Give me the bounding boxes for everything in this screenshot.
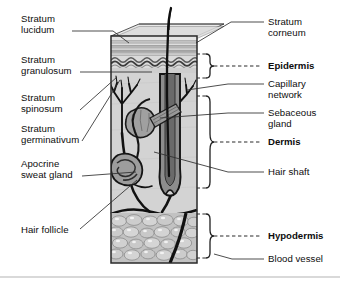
label-hair-shaft: Hair shaft	[268, 166, 310, 177]
label-stratum-lucidum: Stratum lucidum	[21, 13, 55, 36]
layer-brackets	[206, 54, 214, 258]
label-blood-vessel: Blood vessel	[268, 253, 323, 264]
epidermis-layer	[111, 36, 199, 74]
label-sebaceous-gland: Sebaceous gland	[268, 107, 316, 130]
label-dermis: Dermis	[268, 136, 301, 147]
bracket-ticks	[197, 54, 206, 258]
label-stratum-spinosum: Stratum spinosum	[21, 92, 62, 115]
label-stratum-corneum: Stratum corneum	[268, 16, 306, 39]
page-baseline-rule	[0, 276, 340, 278]
label-apocrine-sweat-gland: Apocrine sweat gland	[21, 158, 73, 181]
label-stratum-germinativum: Stratum germinativum	[21, 123, 79, 146]
label-hair-follicle: Hair follicle	[21, 224, 69, 235]
label-epidermis: Epidermis	[268, 60, 314, 71]
hypodermis-layer	[109, 212, 200, 263]
bracket-label-connectors	[214, 66, 262, 236]
dermis-layer	[108, 72, 197, 214]
label-hypodermis: Hypodermis	[268, 230, 323, 241]
label-stratum-granulosum: Stratum granulosum	[21, 54, 72, 77]
label-capillary-network: Capillary network	[268, 78, 306, 101]
